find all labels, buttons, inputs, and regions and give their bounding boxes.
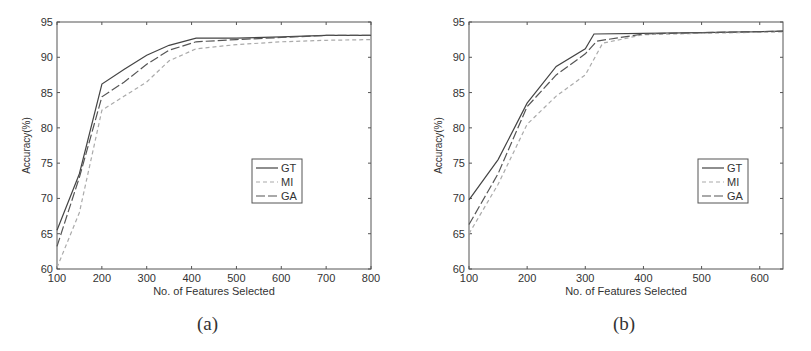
plot-area: [469, 22, 783, 269]
x-tick-label: 400: [182, 272, 200, 284]
legend: GTMIGA: [698, 159, 748, 203]
caption-b: (b): [613, 313, 635, 335]
y-tick-label: 65: [41, 228, 53, 240]
series-line-mi: [57, 40, 371, 268]
y-tick-label: 90: [41, 51, 53, 63]
x-tick-label: 500: [692, 272, 710, 284]
series-line-gt: [57, 35, 371, 230]
line-chart-b: 1002003004005006006065707580859095No. of…: [405, 0, 811, 300]
y-tick-label: 70: [453, 192, 465, 204]
legend-label-mi: MI: [281, 176, 293, 188]
x-tick-label: 600: [272, 272, 290, 284]
y-tick-label: 80: [41, 122, 53, 134]
y-axis-label: Accuracy(%): [433, 117, 444, 174]
y-tick-label: 85: [453, 87, 465, 99]
legend-label-ga: GA: [727, 190, 744, 202]
line-chart-a: 1002003004005006007008006065707580859095…: [0, 0, 405, 300]
y-tick-label: 80: [453, 122, 465, 134]
y-tick-label: 95: [41, 16, 53, 28]
y-tick-label: 75: [453, 157, 465, 169]
x-tick-label: 800: [362, 272, 380, 284]
legend: GTMIGA: [252, 159, 302, 203]
y-tick-label: 85: [41, 87, 53, 99]
legend-label-ga: GA: [281, 190, 298, 202]
x-tick-label: 600: [751, 272, 769, 284]
legend-label-mi: MI: [727, 176, 739, 188]
x-tick-label: 700: [317, 272, 335, 284]
x-tick-label: 200: [518, 272, 536, 284]
caption-a: (a): [197, 313, 218, 335]
chart-panel-b: 1002003004005006006065707580859095No. of…: [405, 0, 811, 351]
chart-panel-a: 1002003004005006007008006065707580859095…: [0, 0, 405, 351]
y-tick-label: 70: [41, 192, 53, 204]
y-tick-label: 65: [453, 228, 465, 240]
y-tick-label: 95: [453, 16, 465, 28]
series-line-ga: [57, 35, 371, 246]
plot-area: [57, 22, 371, 269]
y-tick-label: 60: [453, 263, 465, 275]
x-tick-label: 500: [227, 272, 245, 284]
legend-label-gt: GT: [281, 162, 297, 174]
x-tick-label: 300: [576, 272, 594, 284]
x-tick-label: 200: [93, 272, 111, 284]
y-tick-label: 90: [453, 51, 465, 63]
x-tick-label: 300: [138, 272, 156, 284]
y-axis-label: Accuracy(%): [21, 117, 32, 174]
y-tick-label: 75: [41, 157, 53, 169]
x-axis-label: No. of Features Selected: [565, 285, 687, 297]
x-axis-label: No. of Features Selected: [153, 285, 275, 297]
legend-label-gt: GT: [727, 162, 743, 174]
y-tick-label: 60: [41, 263, 53, 275]
x-tick-label: 400: [634, 272, 652, 284]
